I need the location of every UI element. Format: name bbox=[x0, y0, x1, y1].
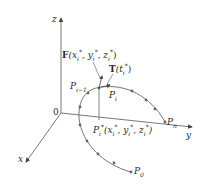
tangent-arg: (t bbox=[116, 64, 123, 74]
y-axis-label: y bbox=[186, 131, 191, 140]
z-axis-label: z bbox=[52, 15, 57, 24]
force-leader bbox=[93, 62, 100, 78]
force-vector bbox=[99, 76, 102, 88]
sub: i−1 bbox=[76, 86, 87, 93]
p-i-star-label: Pi*(xi*, yi*, zi*) bbox=[93, 126, 152, 135]
p-i-minus-1-label: Pi−1 bbox=[70, 82, 87, 91]
sub: i bbox=[108, 55, 110, 62]
tangent-label: T(ti*) bbox=[109, 65, 131, 74]
p-n-label: Pn bbox=[167, 118, 177, 127]
diagram-graphics bbox=[0, 0, 207, 186]
force-arg-x: (x bbox=[68, 50, 77, 60]
sub: i bbox=[144, 130, 146, 137]
sub: i bbox=[77, 55, 79, 62]
sub: i bbox=[113, 130, 115, 137]
x-axis-label: x bbox=[18, 155, 23, 164]
paren: ) bbox=[113, 50, 117, 60]
tangent-leader bbox=[107, 74, 113, 84]
sub: i bbox=[128, 130, 130, 137]
sub: i bbox=[123, 69, 125, 76]
force-arg-y: , y bbox=[82, 50, 93, 60]
p-0-label: P0 bbox=[134, 167, 144, 176]
arg-x: (x bbox=[104, 125, 113, 135]
arg-y: , y bbox=[118, 125, 129, 135]
origin-label: 0 bbox=[53, 108, 59, 117]
sub: i bbox=[115, 95, 117, 102]
sub: 0 bbox=[140, 171, 144, 178]
arg-z: , z bbox=[133, 125, 143, 135]
line-integral-diagram: z y x 0 F(xi*, yi*, zi*) T(ti*) Pi−1 Pi … bbox=[0, 0, 207, 186]
p-i-label: Pi bbox=[109, 91, 117, 100]
sub: n bbox=[173, 122, 177, 129]
paren: ) bbox=[128, 64, 132, 74]
sub: i bbox=[99, 130, 101, 137]
force-arg-z: , z bbox=[98, 50, 108, 60]
force-label: F(xi*, yi*, zi*) bbox=[62, 51, 117, 60]
tangent-symbol: T bbox=[109, 64, 116, 74]
x-axis bbox=[26, 113, 61, 162]
sub: i bbox=[93, 55, 95, 62]
paren: ) bbox=[149, 125, 153, 135]
